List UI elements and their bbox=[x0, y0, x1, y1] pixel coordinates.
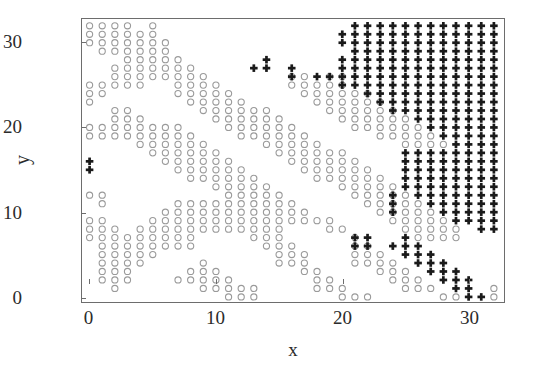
x-tick-mark bbox=[216, 279, 217, 284]
x-tick-label: 30 bbox=[460, 307, 479, 329]
x-tick-mark bbox=[89, 279, 90, 284]
plot-area bbox=[81, 18, 505, 303]
x-axis-label: x bbox=[288, 339, 298, 361]
y-tick-mark bbox=[81, 42, 86, 43]
y-tick-mark bbox=[81, 298, 86, 299]
y-tick-mark bbox=[81, 213, 86, 214]
y-tick-mark bbox=[81, 127, 86, 128]
data-points-layer bbox=[82, 19, 504, 302]
x-tick-label: 0 bbox=[84, 307, 94, 329]
y-tick-label: 10 bbox=[3, 202, 22, 224]
x-tick-mark bbox=[343, 279, 344, 284]
scatter-plot-figure: 0102030 0102030 x y bbox=[0, 0, 534, 372]
y-axis-label: y bbox=[11, 155, 34, 165]
y-tick-label: 0 bbox=[13, 287, 23, 309]
x-tick-mark bbox=[469, 279, 470, 284]
y-tick-label: 20 bbox=[3, 116, 22, 138]
y-tick-label: 30 bbox=[3, 31, 22, 53]
x-tick-label: 10 bbox=[206, 307, 225, 329]
x-tick-label: 20 bbox=[333, 307, 352, 329]
